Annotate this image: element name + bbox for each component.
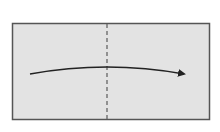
fold-diagram (0, 0, 220, 132)
